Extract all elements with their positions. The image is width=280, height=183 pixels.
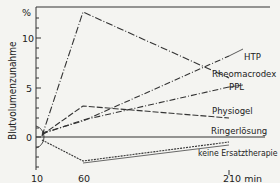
leader-htp: [229, 49, 243, 56]
y-ticks: [36, 18, 41, 167]
label-ringer: Ringerlösung: [211, 125, 267, 136]
series-physiogel: [42, 106, 229, 135]
chart: HTP Rheomacrodex PPL Physiogel Ringerlös…: [0, 0, 280, 183]
x-tick-210: 210 min: [223, 173, 262, 183]
label-physiogel: Physiogel: [212, 105, 253, 116]
x-tick-60: 60: [78, 173, 90, 183]
series-rheomacrodex: [42, 12, 229, 136]
label-rheomacrodex: Rheomacrodex: [212, 68, 276, 79]
label-ppl: PPL: [229, 81, 244, 92]
series-ppl: [42, 87, 229, 134]
y-unit: %: [22, 7, 31, 18]
y-tick-0: 0: [26, 132, 32, 143]
label-htp: HTP: [244, 51, 261, 62]
label-keine: keine Ersatztherapie: [198, 148, 278, 158]
series-htp: [42, 56, 229, 133]
x-tick-10: 10: [31, 173, 43, 183]
y-tick-10: 10: [22, 33, 34, 44]
y-axis-label: Blutvolumenzunahme: [7, 41, 18, 140]
y-tick-5: 5: [26, 83, 32, 94]
